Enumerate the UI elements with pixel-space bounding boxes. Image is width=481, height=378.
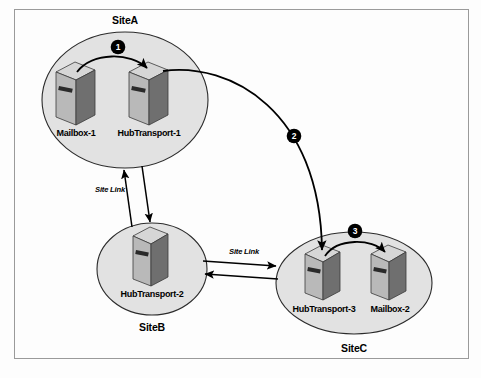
server-icon-hubtransport-3[interactable] — [305, 245, 340, 300]
diagram-canvas: SiteA Mailbox-1 HubTransport-1 1 — [0, 0, 481, 378]
diagram-figure: SiteA Mailbox-1 HubTransport-1 1 — [0, 0, 481, 378]
flow-badge-3: 3 — [348, 224, 363, 239]
server-icon-hubtransport-2[interactable] — [133, 227, 168, 286]
server-label-hubtransport-1: HubTransport-1 — [118, 128, 181, 138]
site-group-siteB[interactable]: SiteB HubTransport-2 — [97, 223, 207, 333]
server-icon-mailbox-1[interactable] — [56, 62, 95, 125]
server-label-mailbox-2: Mailbox-2 — [371, 304, 410, 314]
server-label-mailbox-1: Mailbox-1 — [57, 128, 96, 138]
site-group-siteC[interactable]: SiteC HubTransport-3 Mailbox-2 3 — [276, 224, 432, 354]
site-group-siteA[interactable]: SiteA Mailbox-1 HubTransport-1 1 — [42, 14, 208, 168]
site-link-b-c-left — [205, 274, 278, 279]
site-link-label-a-b: Site Link — [95, 185, 126, 194]
site-link-b-c-right — [203, 261, 276, 266]
flow-badge-1: 1 — [111, 40, 126, 55]
site-boundary-siteC — [276, 232, 432, 334]
site-link-a-b-up — [124, 170, 132, 227]
site-link-a-b-down — [142, 166, 150, 222]
server-icon-mailbox-2[interactable] — [371, 245, 406, 300]
flow-badge-2-number: 2 — [292, 131, 297, 141]
site-label-siteC: SiteC — [341, 342, 367, 354]
site-link-label-b-c: Site Link — [229, 247, 260, 256]
server-icon-hubtransport-1[interactable] — [129, 62, 168, 125]
site-link-b-c[interactable]: Site Link — [203, 247, 278, 279]
flow-badge-3-number: 3 — [353, 226, 358, 236]
site-label-siteA: SiteA — [112, 14, 138, 26]
flow-badge-2: 2 — [287, 129, 302, 144]
server-label-hubtransport-2: HubTransport-2 — [121, 289, 184, 299]
site-link-a-b[interactable]: Site Link — [95, 166, 150, 227]
site-label-siteB: SiteB — [139, 321, 165, 333]
flow-badge-1-number: 1 — [116, 42, 121, 52]
server-label-hubtransport-3: HubTransport-3 — [293, 304, 356, 314]
